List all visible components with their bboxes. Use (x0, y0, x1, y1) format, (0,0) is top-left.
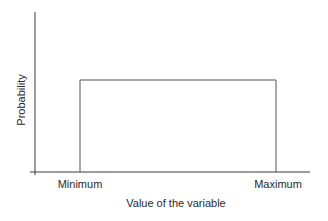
uniform-distribution-line (80, 80, 276, 172)
x-tick-minimum: Minimum (58, 178, 103, 190)
y-axis-label: Probability (15, 74, 27, 126)
x-axis-label: Value of the variable (126, 197, 225, 209)
uniform-distribution-chart: Probability Minimum Maximum Value of the… (0, 0, 328, 221)
x-tick-maximum: Maximum (254, 178, 302, 190)
